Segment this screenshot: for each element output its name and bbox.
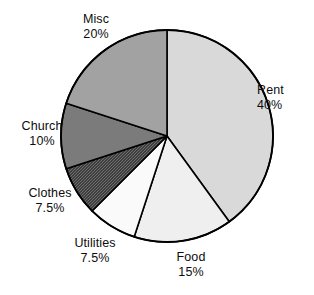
pie-label-misc-value: 20%: [60, 27, 132, 42]
pie-chart: Misc 20% Rent 40% Church 10% Clothes 7.5…: [0, 0, 314, 295]
pie-label-rent-name: Rent: [257, 83, 313, 98]
pie-label-utilities-name: Utilities: [54, 236, 136, 251]
pie-label-food-name: Food: [160, 250, 222, 265]
pie-label-food: Food 15%: [160, 250, 222, 279]
pie-label-utilities: Utilities 7.5%: [54, 236, 136, 265]
pie-label-utilities-value: 7.5%: [54, 251, 136, 266]
pie-label-clothes-name: Clothes: [12, 186, 88, 201]
pie-label-misc: Misc 20%: [60, 12, 132, 41]
pie-label-clothes-value: 7.5%: [12, 201, 88, 216]
pie-slice-group: [61, 30, 273, 242]
pie-label-church: Church 10%: [6, 119, 78, 148]
pie-label-clothes: Clothes 7.5%: [12, 186, 88, 215]
pie-label-misc-name: Misc: [60, 12, 132, 27]
pie-label-rent-value: 40%: [257, 98, 313, 113]
pie-label-church-name: Church: [6, 119, 78, 134]
pie-label-church-value: 10%: [6, 134, 78, 149]
pie-label-food-value: 15%: [160, 265, 222, 280]
pie-label-rent: Rent 40%: [257, 83, 313, 112]
